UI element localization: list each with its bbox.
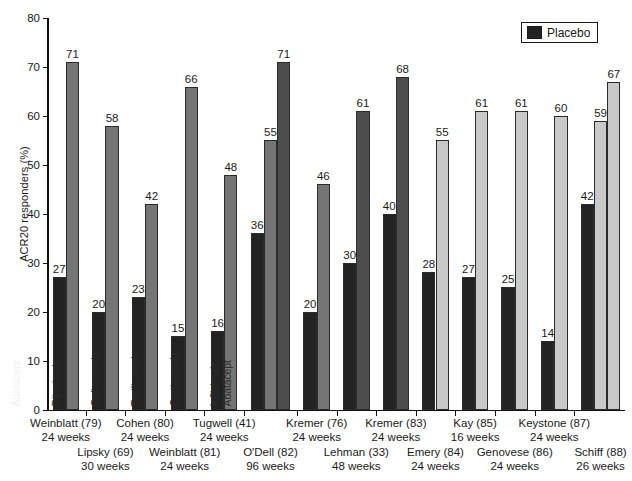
bar-value-label: 58 [99, 113, 124, 124]
bar-value-label: 25 [495, 274, 520, 285]
bar-value-label: 48 [218, 162, 243, 173]
y-tick-label-60: 60 [14, 111, 40, 121]
bar-value-label: 59 [588, 108, 613, 119]
group-label-13: Schiff (88)26 weeks [542, 446, 632, 473]
bar-value-label: 61 [350, 98, 375, 109]
bar-value-label: 23 [126, 284, 151, 295]
acr20-responders-bar-chart: ACR20 responders (%) 01020304050607080 2… [0, 0, 632, 481]
legend-placebo-swatch [527, 26, 542, 39]
x-tick-mark [574, 410, 575, 416]
bar-value-label: 20 [297, 299, 322, 310]
bar-series-label: Abatacept [227, 360, 619, 406]
bar-value-label: 16 [205, 318, 230, 329]
bar-value-label: 46 [311, 171, 336, 182]
bar-value-label: 68 [390, 64, 415, 75]
y-tick-label-50: 50 [14, 160, 40, 170]
bar-value-label: 28 [416, 259, 441, 270]
x-tick-mark [495, 410, 496, 416]
bar-value-label: 20 [86, 299, 111, 310]
bar-value-label: 40 [377, 201, 402, 212]
bar-value-label: 15 [165, 323, 190, 334]
bar-value-label: 27 [47, 264, 72, 275]
bar-value-label: 71 [60, 49, 85, 60]
x-tick-mark [244, 410, 245, 416]
y-axis-title: ACR20 responders (%) [18, 94, 30, 314]
y-tick-label-80: 80 [14, 13, 40, 23]
x-tick-mark [376, 410, 377, 416]
bar-value-label: 71 [271, 49, 296, 60]
x-tick-mark [535, 410, 536, 416]
x-tick-mark [416, 410, 417, 416]
x-tick-mark [204, 410, 205, 416]
x-tick-mark [86, 410, 87, 416]
y-tick-label-40: 40 [14, 209, 40, 219]
x-tick-mark [337, 410, 338, 416]
bar-value-label: 55 [430, 127, 455, 138]
bar-value-label: 30 [337, 250, 362, 261]
group-duration: 24 weeks [495, 431, 613, 445]
bar-value-label: 66 [179, 74, 204, 85]
bar-value-label: 42 [575, 191, 600, 202]
legend-placebo-label: Placebo [547, 27, 590, 39]
x-tick-mark [165, 410, 166, 416]
group-duration: 26 weeks [542, 460, 632, 474]
y-tick-label-70: 70 [14, 62, 40, 72]
bar-value-label: 42 [139, 191, 164, 202]
plot-area: 2771Etanercept2058Infliximab2342Anakinra… [49, 18, 625, 410]
bar-value-label: 14 [535, 328, 560, 339]
x-tick-mark [455, 410, 456, 416]
bar-value-label: 27 [456, 264, 481, 275]
x-tick-mark [125, 410, 126, 416]
group-label-12: Keystone (87)24 weeks [495, 417, 613, 444]
bar-value-label: 67 [601, 69, 626, 80]
y-tick-label-20: 20 [14, 307, 40, 317]
bar-value-label: 36 [245, 220, 270, 231]
bar-value-label: 61 [509, 98, 534, 109]
legend: Placebo [521, 22, 598, 43]
bar-value-label: 60 [548, 103, 573, 114]
y-tick-label-30: 30 [14, 258, 40, 268]
bar-value-label: 55 [258, 127, 283, 138]
bar-value-label: 61 [469, 98, 494, 109]
group-study-name: Schiff (88) [542, 446, 632, 460]
group-study-name: Keystone (87) [495, 417, 613, 431]
x-tick-mark [297, 410, 298, 416]
